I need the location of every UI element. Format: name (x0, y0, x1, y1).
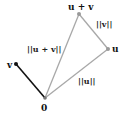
label-norm-v: ||v|| (96, 19, 112, 29)
point-v (14, 62, 18, 66)
label-v: v (6, 60, 13, 70)
label-u: u (112, 44, 119, 54)
triangle-inequality-diagram: 0 v u u + v ||u + v|| ||v|| ||u|| (0, 0, 129, 115)
point-u-plus-v (77, 12, 81, 16)
label-u-plus-v: u + v (68, 2, 94, 12)
point-origin (43, 96, 47, 100)
point-u (106, 47, 110, 51)
label-norm-u: ||u|| (78, 76, 95, 86)
label-norm-u-plus-v: ||u + v|| (27, 44, 61, 54)
vector-v (16, 64, 45, 98)
label-origin: 0 (41, 103, 47, 113)
